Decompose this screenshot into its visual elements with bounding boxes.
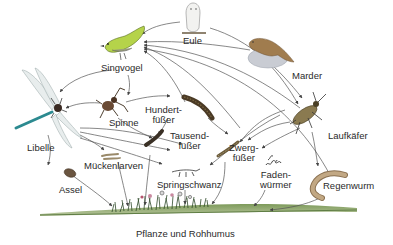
nematodes-icon [266, 156, 281, 165]
owl-icon [182, 3, 206, 33]
label-libelle: Libelle [27, 143, 54, 153]
label-hundertfuesser: Hundert- füßer [145, 105, 182, 125]
ground-icon [40, 204, 357, 216]
label-eule: Eule [183, 36, 202, 46]
label-tausendfuesser: Tausend- füßer [170, 131, 209, 151]
ground-beetle-icon [290, 92, 326, 134]
label-assel: Assel [59, 185, 82, 195]
label-regenwurm: Regenwurm [323, 181, 374, 191]
label-fadenwuermer: Faden- würmer [260, 170, 292, 190]
label-springschwanz: Springschwanz [157, 180, 221, 190]
springtail-icon [172, 169, 200, 177]
label-spinne: Spinne [109, 118, 139, 128]
label-marder: Marder [292, 71, 322, 81]
songbird-icon [100, 26, 145, 60]
label-zwergfuesser: Zwerg- füßer [229, 143, 259, 163]
label-singvogel: Singvogel [101, 63, 143, 73]
label-pflanze-und-rohhumus: Pflanze und Rohhumus [136, 229, 235, 239]
spider-icon [96, 88, 128, 118]
centipede-icon [184, 97, 212, 118]
label-laufkaefer: Laufkäfer [328, 131, 368, 141]
food-web-diagram: Eule Marder Singvogel Libelle Spinne Hun… [0, 0, 393, 245]
label-mueckenlarven: Mückenlarven [84, 161, 143, 171]
marten-icon [248, 38, 294, 68]
dragonfly-icon [16, 68, 82, 148]
mosquito-larvae-icon [102, 154, 120, 159]
